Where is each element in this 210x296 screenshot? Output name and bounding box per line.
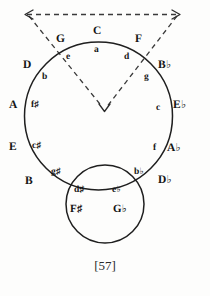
major-key-F-sharp: F♯: [70, 204, 82, 215]
major-key-G: G: [56, 34, 65, 46]
major-key-D-flat: D♭: [158, 175, 172, 187]
minor-key-g-sharp: g♯: [51, 167, 60, 178]
minor-key-e: e: [66, 52, 70, 63]
minor-key-c-sharp: c♯: [32, 141, 41, 152]
minor-key-b-flat: b♭: [134, 167, 144, 178]
major-key-D: D: [23, 60, 32, 72]
minor-key-f-sharp: f♯: [31, 100, 39, 111]
major-key-G-flat: G♭: [113, 204, 127, 215]
minor-key-b: b: [42, 72, 47, 83]
major-key-A: A: [9, 100, 18, 112]
major-key-B-flat: B♭: [158, 60, 171, 72]
minor-key-d: d: [124, 52, 129, 63]
major-key-A-flat: A♭: [167, 143, 181, 155]
minor-key-a: a: [94, 45, 99, 56]
minor-key-c: c: [156, 103, 160, 114]
main-circle: [25, 42, 173, 190]
minor-key-g: g: [144, 72, 149, 83]
page-number: [57]: [0, 258, 210, 274]
major-key-E-flat: E♭: [173, 100, 186, 112]
major-key-F: F: [135, 34, 142, 46]
major-key-C: C: [93, 26, 102, 38]
major-key-E: E: [9, 142, 17, 154]
minor-key-d-sharp: d♯: [74, 185, 84, 196]
circle-of-fifths-figure: C G D A E B F♯ G♭ D♭ A♭ E♭ B♭ F a e b f♯…: [0, 0, 210, 296]
major-key-B: B: [25, 176, 33, 188]
minor-key-f: f: [153, 143, 156, 154]
minor-key-e-flat: e♭: [112, 185, 121, 196]
